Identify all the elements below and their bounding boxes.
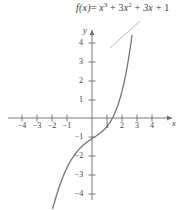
y-tick-label-4: 4: [76, 38, 86, 47]
y-tick-label-2: 2: [76, 76, 86, 85]
x-tick-label--3: −3: [30, 121, 44, 130]
x-tick-label--2: −2: [45, 121, 59, 130]
y-axis-label: y: [83, 25, 87, 35]
y-tick-label--2: −2: [72, 151, 86, 160]
y-tick-label--1: −1: [72, 132, 86, 141]
y-tick-label--3: −3: [72, 170, 86, 179]
y-tick-label-3: 3: [76, 57, 86, 66]
x-tick-label--4: −4: [15, 121, 29, 130]
x-tick-label-2: 2: [116, 121, 128, 130]
annotation-leader-line: [110, 21, 140, 48]
y-tick-label-1: 1: [76, 95, 86, 104]
y-axis-arrowhead: [90, 30, 95, 35]
x-tick-label-3: 3: [131, 121, 143, 130]
plot-canvas: [0, 0, 184, 210]
x-tick-label-4: 4: [146, 121, 158, 130]
x-tick-label--1: −1: [60, 121, 74, 130]
x-tick-label-1: 1: [101, 121, 113, 130]
x-axis-label: x: [172, 118, 176, 128]
function-graph-figure: f(x)= x3 + 3x2 + 3x + 1: [0, 0, 184, 210]
y-tick-label--4: −4: [72, 189, 86, 198]
